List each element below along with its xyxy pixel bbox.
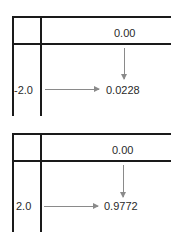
column-header-value: 0.00 [112, 144, 133, 156]
down-arrow-icon [123, 165, 124, 197]
table-top-border [12, 16, 171, 18]
row-header-value: -2.0 [14, 84, 33, 96]
down-arrow-icon [124, 48, 125, 79]
z-table-lookup-panel-1: 0.00 -2.0 0.0228 [0, 0, 183, 120]
table-row-header-divider [40, 16, 42, 116]
right-arrow-icon [44, 206, 98, 207]
table-header-divider [12, 43, 171, 45]
column-header-value: 0.00 [114, 27, 135, 39]
row-header-value: 2.0 [16, 200, 31, 212]
right-arrow-icon [45, 89, 99, 90]
table-row-header-divider [40, 133, 42, 232]
table-top-border [12, 133, 171, 135]
lookup-result-value: 0.9772 [104, 200, 138, 212]
z-table-lookup-panel-2: 0.00 2.0 0.9772 [0, 120, 183, 241]
table-left-border [12, 133, 14, 232]
lookup-result-value: 0.0228 [106, 84, 140, 96]
table-left-border [12, 16, 14, 116]
table-header-divider [12, 160, 171, 162]
